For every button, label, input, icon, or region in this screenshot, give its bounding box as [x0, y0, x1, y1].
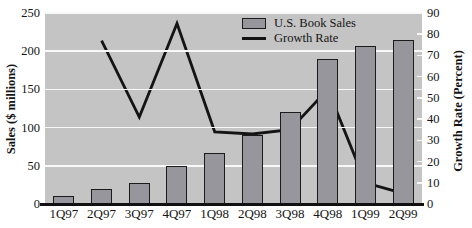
book-sales-chart: 050100150200250 0102030405060708090 1Q97…: [0, 0, 472, 228]
legend-item-growth-rate: Growth Rate: [242, 31, 356, 45]
right-tick-mark-30: [417, 140, 422, 142]
line-swatch-icon: [242, 37, 266, 40]
right-tick-label-20: 20: [427, 155, 440, 169]
right-tick-label-90: 90: [427, 6, 440, 20]
right-tick-label-50: 50: [427, 91, 440, 105]
right-tick-mark-50: [417, 97, 422, 99]
right-tick-mark-40: [417, 118, 422, 120]
gridline-250: [45, 12, 422, 14]
bar-1q98: [204, 153, 225, 204]
right-tick-label-70: 70: [427, 48, 440, 62]
bar-swatch-icon: [242, 18, 266, 29]
bar-3q98: [280, 112, 301, 204]
legend-item-book-sales: U.S. Book Sales: [242, 16, 356, 30]
bar-2q99: [393, 40, 414, 204]
right-tick-label-30: 30: [427, 133, 440, 147]
plot-area: [45, 13, 422, 204]
bar-2q98: [242, 135, 263, 204]
right-axis-title: Growth Rate (Percent): [451, 50, 466, 172]
left-tick-label-50: 50: [2, 159, 40, 173]
right-tick-mark-10: [417, 182, 422, 184]
left-tick-label-250: 250: [2, 6, 40, 20]
legend-label-book-sales: U.S. Book Sales: [274, 16, 356, 30]
bar-4q98: [317, 59, 338, 204]
right-tick-mark-70: [417, 55, 422, 57]
left-tick-label-200: 200: [2, 44, 40, 58]
right-tick-mark-60: [417, 76, 422, 78]
x-tick-label-2q99: 2Q99: [379, 207, 427, 221]
right-tick-label-80: 80: [427, 27, 440, 41]
right-tick-label-40: 40: [427, 112, 440, 126]
left-tick-label-0: 0: [2, 197, 40, 211]
right-tick-label-60: 60: [427, 70, 440, 84]
right-tick-label-0: 0: [427, 197, 433, 211]
bar-4q97: [166, 166, 187, 204]
right-tick-mark-80: [417, 33, 422, 35]
right-tick-label-10: 10: [427, 176, 440, 190]
left-axis-title: Sales ($ millions): [4, 64, 19, 154]
bar-2q97: [91, 189, 112, 204]
legend: U.S. Book Sales Growth Rate: [242, 16, 356, 46]
bar-3q97: [129, 183, 150, 204]
right-tick-mark-20: [417, 161, 422, 163]
bar-1q99: [355, 46, 376, 204]
legend-label-growth-rate: Growth Rate: [274, 31, 338, 45]
